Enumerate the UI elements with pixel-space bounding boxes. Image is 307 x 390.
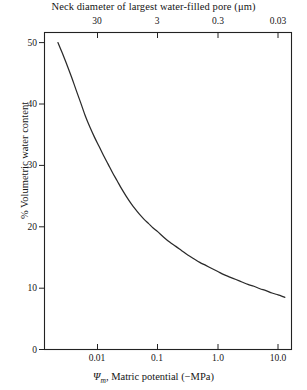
bottom-tick-label-10.0: 10.0 — [270, 353, 287, 363]
plot-canvas — [0, 0, 307, 390]
retention-curve-line — [58, 43, 285, 298]
bottom-tick-label-0.1: 0.1 — [151, 353, 163, 363]
left-axis-ticks — [39, 43, 45, 350]
x-axis-label-text: , Matric potential (−MPa) — [106, 371, 214, 382]
bottom-tick-label-1.0: 1.0 — [212, 353, 224, 363]
plot-frame — [45, 33, 292, 350]
top-tick-label-0.03: 0.03 — [270, 16, 287, 26]
top-axis-ticks — [98, 33, 279, 39]
bottom-tick-label-0.01: 0.01 — [89, 353, 106, 363]
top-tick-label-0.3: 0.3 — [212, 16, 224, 26]
top-tick-label-3: 3 — [155, 16, 160, 26]
y-tick-label-0: 0 — [16, 345, 37, 355]
x-axis-label: Ψm, Matric potential (−MPa) — [0, 371, 307, 385]
y-tick-label-50: 50 — [16, 38, 37, 48]
top-tick-label-30: 30 — [92, 16, 102, 26]
chart-figure: Neck diameter of largest water-filled po… — [0, 0, 307, 390]
y-axis-label: % Volumetric water content — [19, 51, 30, 271]
y-tick-label-10: 10 — [16, 283, 37, 293]
bottom-axis-ticks — [98, 344, 279, 350]
axes-frame-rect — [45, 33, 292, 350]
